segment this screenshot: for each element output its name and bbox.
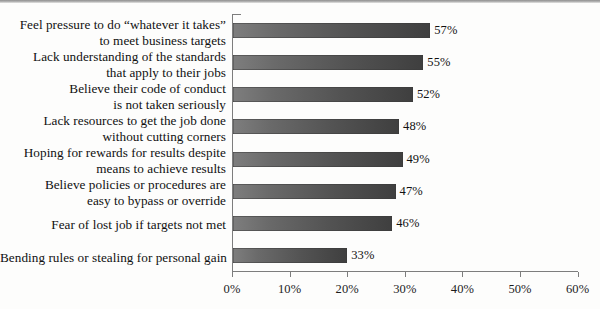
x-axis-tick xyxy=(290,272,291,277)
bar-row: 33% xyxy=(233,240,374,272)
bar-row: 52% xyxy=(233,79,440,111)
bar-row: 47% xyxy=(233,175,423,207)
category-label-line: Believe their code of conduct xyxy=(0,81,226,97)
category-label-line: that apply to their jobs xyxy=(0,65,226,81)
bar-value-label: 47% xyxy=(400,184,423,199)
bar-value-label: 57% xyxy=(434,23,457,38)
category-label-line: Fear of lost job if targets not met xyxy=(0,217,226,233)
category-label-line: easy to bypass or override xyxy=(0,193,226,209)
category-label-line: Feel pressure to do “whatever it takes” xyxy=(0,17,226,33)
category-label: Lack resources to get the job done witho… xyxy=(0,113,226,144)
x-axis-tick-label: 20% xyxy=(336,282,359,297)
category-axis-labels: Feel pressure to do “whatever it takes” … xyxy=(0,14,226,272)
category-label-line: means to achieve results xyxy=(0,161,226,177)
category-label: Lack understanding of the standards that… xyxy=(0,49,226,80)
bar-row: 46% xyxy=(233,208,419,240)
bar-value-label: 46% xyxy=(396,216,419,231)
bar-row: 48% xyxy=(233,111,426,143)
bar-value-label: 52% xyxy=(417,87,440,102)
x-axis-tick xyxy=(232,272,233,277)
bar xyxy=(233,248,347,263)
bar-value-label: 55% xyxy=(427,55,450,70)
bar xyxy=(233,87,413,102)
bar xyxy=(233,184,396,199)
x-axis-tick-label: 30% xyxy=(393,282,416,297)
bar xyxy=(233,152,403,167)
plot-area: 57% 55% 52% 48% 49% 47% 46% 33% xyxy=(232,14,578,272)
bar-value-label: 48% xyxy=(403,119,426,134)
page-edge-artifact xyxy=(0,0,600,3)
category-label-line: Lack resources to get the job done xyxy=(0,113,226,129)
category-label: Believe their code of conduct is not tak… xyxy=(0,81,226,112)
x-axis-tick xyxy=(578,272,579,277)
category-label-line: Believe policies or procedures are xyxy=(0,177,226,193)
x-axis-tick-label: 50% xyxy=(508,282,531,297)
category-label-line: is not taken seriously xyxy=(0,97,226,113)
bar xyxy=(233,216,392,231)
category-label-line: Hoping for rewards for results despite xyxy=(0,145,226,161)
x-axis-tick-label: 10% xyxy=(278,282,301,297)
category-label: Fear of lost job if targets not met xyxy=(0,217,226,233)
category-label: Believe policies or procedures are easy … xyxy=(0,177,226,208)
category-label-line: without cutting corners xyxy=(0,129,226,145)
category-label: Feel pressure to do “whatever it takes” … xyxy=(0,17,226,48)
x-axis-tick-label: 0% xyxy=(224,282,241,297)
bar xyxy=(233,55,423,70)
bar-row: 55% xyxy=(233,46,451,78)
x-axis-tick xyxy=(405,272,406,277)
x-axis-tick xyxy=(347,272,348,277)
x-axis-tick-label: 60% xyxy=(566,282,589,297)
x-axis-tick xyxy=(462,272,463,277)
x-axis-tick xyxy=(520,272,521,277)
category-label: Hoping for rewards for results despite m… xyxy=(0,145,226,176)
category-label-line: Bending rules or stealing for personal g… xyxy=(0,250,226,266)
bar-value-label: 33% xyxy=(351,248,374,263)
bar-row: 49% xyxy=(233,143,430,175)
category-label-line: Lack understanding of the standards xyxy=(0,49,226,65)
category-label-line: to meet business targets xyxy=(0,33,226,49)
bar-chart: Feel pressure to do “whatever it takes” … xyxy=(0,0,600,309)
x-axis-tick-label: 40% xyxy=(451,282,474,297)
bar-row: 57% xyxy=(233,14,457,46)
category-label: Bending rules or stealing for personal g… xyxy=(0,250,226,266)
bar xyxy=(233,23,430,38)
bar-value-label: 49% xyxy=(407,152,430,167)
bar xyxy=(233,119,399,134)
